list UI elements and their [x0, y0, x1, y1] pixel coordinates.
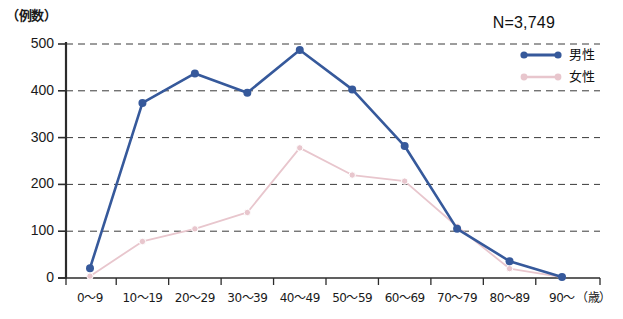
data-point-female: [192, 226, 198, 232]
series-line-female: [90, 148, 562, 277]
y-axis-tick-label: 100: [8, 222, 54, 238]
legend-swatch-female: [519, 69, 563, 81]
legend-item-female: 女性: [519, 68, 595, 82]
y-axis-tick-label: 200: [8, 175, 54, 191]
y-axis-tick-label: 0: [8, 269, 54, 285]
chart-legend: 男性 女性: [519, 46, 595, 82]
data-point-female: [139, 238, 145, 244]
data-point-male: [558, 273, 566, 281]
data-point-female: [349, 172, 355, 178]
x-axis-tick-label: 50〜59: [322, 288, 382, 305]
y-axis-tick-label: 500: [8, 35, 54, 51]
x-axis-tick-label: 10〜19: [112, 288, 172, 305]
data-point-female: [87, 273, 93, 279]
x-axis-ticks: [66, 278, 600, 285]
data-series-layer: [86, 46, 566, 281]
x-axis-tick-label: 20〜29: [165, 288, 225, 305]
data-point-female: [297, 145, 303, 151]
legend-label-male: 男性: [569, 44, 595, 63]
data-point-female: [506, 265, 512, 271]
x-axis-tick-label: 60〜69: [375, 288, 435, 305]
x-axis-tick-label: 40〜49: [270, 288, 330, 305]
data-point-male: [453, 225, 461, 233]
x-axis-tick-label: 80〜89: [480, 288, 540, 305]
x-axis-unit-label: （歳）: [576, 288, 611, 305]
data-point-male: [296, 46, 304, 54]
legend-label-female: 女性: [569, 66, 595, 85]
y-axis-tick-label: 400: [8, 82, 54, 98]
y-axis-tick-label: 300: [8, 129, 54, 145]
data-point-male: [348, 85, 356, 93]
data-point-male: [401, 142, 409, 150]
series-line-male: [90, 50, 562, 277]
data-point-female: [401, 178, 407, 184]
x-axis-tick-label: 0〜9: [60, 288, 120, 305]
x-axis-tick-label: 30〜39: [217, 288, 277, 305]
legend-swatch-male: [519, 47, 563, 59]
data-point-male: [243, 89, 251, 97]
x-axis-tick-label: 70〜79: [427, 288, 487, 305]
data-point-male: [506, 257, 514, 265]
age-distribution-chart: （例数） N=3,749 5004003002001000 0〜910〜1920…: [0, 0, 623, 319]
legend-item-male: 男性: [519, 46, 595, 60]
data-point-male: [86, 264, 94, 272]
data-point-female: [244, 209, 250, 215]
data-point-male: [138, 99, 146, 107]
data-point-male: [191, 69, 199, 77]
